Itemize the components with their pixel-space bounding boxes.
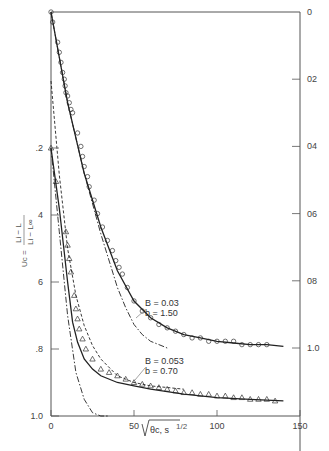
- data-point-circle: [75, 131, 79, 135]
- data-point-triangle: [73, 306, 78, 311]
- data-point-circle: [120, 272, 124, 276]
- left-tick-label: 6: [38, 277, 43, 287]
- data-point-triangle: [80, 336, 85, 341]
- left-tick-label: .2: [35, 143, 43, 153]
- right-tick-label: 06: [307, 209, 317, 219]
- annotation-lower-B: B = 0.053: [145, 356, 184, 366]
- x-tick-label: 0: [48, 421, 53, 431]
- data-point-triangle: [75, 316, 80, 321]
- data-point-circle: [79, 144, 83, 148]
- data-point-triangle: [189, 390, 194, 395]
- y-axis-label-lhs: Uc =: [20, 250, 29, 267]
- annotation-lower-leader: [135, 368, 145, 380]
- data-point-triangle: [68, 269, 73, 274]
- annotation-lower-b: b = 0.70: [145, 366, 178, 376]
- series-line: [51, 81, 184, 389]
- data-point-triangle: [106, 370, 111, 375]
- x-tick-label: 100: [209, 421, 224, 431]
- y-axis-label-num: Li − L: [14, 223, 23, 243]
- x-tick-label: 50: [129, 421, 139, 431]
- data-point-triangle: [256, 396, 261, 401]
- y-axis-label-den: Li − L∞: [26, 219, 35, 245]
- x-axis-label-exponent: 1/2: [176, 422, 188, 431]
- data-point-triangle: [206, 391, 211, 396]
- annotation-upper-leader: [136, 310, 145, 318]
- chart: 050100150θc, s1/2.246.81.00020406081.0Uc…: [0, 0, 329, 451]
- annotation-upper-B: B = 0.03: [145, 298, 179, 308]
- data-point-triangle: [98, 366, 103, 371]
- x-axis-label-text: θc, s: [150, 425, 170, 435]
- right-tick-label: 02: [307, 74, 317, 84]
- y-axis-label: Uc =Li − LLi − L∞: [14, 215, 35, 267]
- right-tick-label: 04: [307, 141, 317, 151]
- annotation-upper-b: b = 1.50: [145, 308, 178, 318]
- x-axis-label: θc, s1/2: [142, 420, 188, 436]
- x-tick-label: 150: [292, 421, 307, 431]
- right-tick-label: 0: [307, 7, 312, 17]
- data-point-triangle: [223, 393, 228, 398]
- data-point-triangle: [90, 356, 95, 361]
- left-tick-label: 1.0: [30, 411, 43, 421]
- series-line: [51, 12, 283, 346]
- data-point-circle: [117, 265, 121, 269]
- left-tick-label: .8: [35, 344, 43, 354]
- plot-frame: [51, 12, 300, 451]
- left-tick-label: 4: [38, 210, 43, 220]
- right-tick-label: 1.0: [307, 343, 320, 353]
- data-point-triangle: [77, 326, 82, 331]
- right-tick-label: 08: [307, 276, 317, 286]
- axes-layer: 050100150θc, s1/2.246.81.00020406081.0Uc…: [14, 7, 320, 436]
- data-point-triangle: [83, 346, 88, 351]
